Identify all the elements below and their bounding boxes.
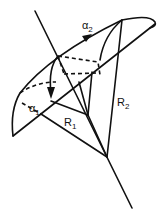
alpha1-label: α1 bbox=[29, 102, 40, 117]
geometry-diagram: α2 α1 R1 R2 bbox=[0, 0, 166, 219]
hidden-edge-vert bbox=[58, 56, 64, 74]
curved-surface-outline bbox=[12, 17, 155, 136]
r2-line bbox=[107, 20, 122, 157]
r1-label: R1 bbox=[64, 116, 77, 131]
hidden-edge-mid bbox=[64, 73, 97, 74]
r2-label: R2 bbox=[117, 96, 130, 111]
alpha1-arrowhead bbox=[47, 87, 55, 99]
inner-line-d bbox=[88, 72, 92, 115]
alpha2-label: α2 bbox=[82, 19, 93, 34]
